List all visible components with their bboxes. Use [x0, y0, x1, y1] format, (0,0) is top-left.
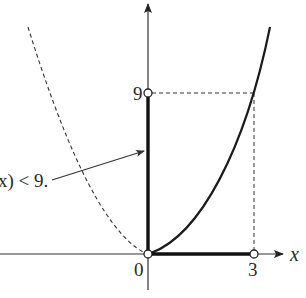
x-tick-label-3: 3	[248, 259, 258, 280]
annotation-arrow	[52, 151, 144, 180]
y-nine-point	[144, 89, 152, 97]
origin-point	[144, 250, 152, 258]
parabola-right-branch	[151, 27, 270, 253]
diagram-canvas: 9 0 3 x x) < 9.	[0, 0, 306, 298]
x-three-point	[250, 250, 258, 258]
origin-label: 0	[134, 259, 144, 280]
x-axis-label: x	[289, 243, 299, 265]
parabola-left-branch	[28, 27, 145, 253]
y-tick-label-9: 9	[133, 83, 143, 104]
annotation-text: x) < 9.	[0, 170, 48, 192]
